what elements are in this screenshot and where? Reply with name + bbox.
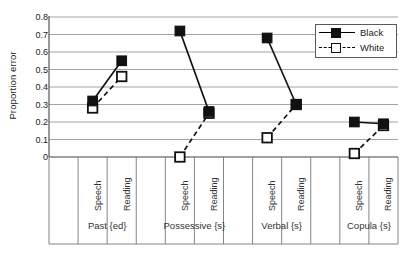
series-black-segment [180,31,209,112]
legend-label: White [360,42,384,53]
x-group-label-possessives: Possessive {s} [164,220,226,231]
x-category-label: Reading [209,159,220,211]
x-category-label: Speech [180,159,191,211]
series-black-segment [267,38,296,105]
x-group-label-copulas: Copula {s} [347,220,391,231]
chart-container: Proportion error 00.10.20.30.40.50.60.70… [0,0,409,257]
x-category-label: Speech [267,159,278,211]
data-point-white-4 [262,133,272,143]
data-point-white-6 [350,149,360,159]
legend-label: Black [360,27,383,38]
x-group-label-pasted: Past {ed} [88,220,127,231]
data-point-black-3 [204,107,214,117]
legend-entry-black: Black [316,25,396,40]
data-point-black-5 [291,100,301,110]
data-point-black-2 [175,26,185,36]
data-point-black-7 [379,119,389,129]
x-category-label: Speech [93,159,104,211]
x-category-label: Reading [122,159,133,211]
x-group-label-verbals: Verbal {s} [261,220,302,231]
legend-swatch-black [319,26,355,40]
data-point-black-1 [117,56,127,66]
x-category-label: Speech [354,159,365,211]
legend-square-icon [331,43,341,53]
series-white-segment [180,113,209,157]
legend-square-icon [331,28,341,38]
x-category-label: Reading [296,159,307,211]
data-point-white-1 [117,72,127,82]
legend-swatch-white [319,41,355,55]
data-point-black-0 [88,96,98,106]
chart-legend: BlackWhite [315,24,397,58]
data-point-black-6 [350,117,360,127]
legend-entry-white: White [316,40,396,55]
x-category-label: Reading [383,159,394,211]
data-point-black-4 [262,33,272,43]
